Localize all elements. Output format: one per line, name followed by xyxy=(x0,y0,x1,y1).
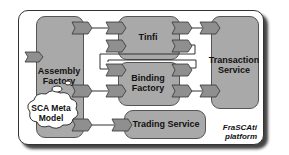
tinfi-port-in1 xyxy=(106,22,126,34)
cloud-line2: Model xyxy=(26,113,76,123)
transaction-port-in1 xyxy=(200,22,220,34)
binding-port-in2 xyxy=(106,85,126,97)
sca-meta-model-label: SCA Meta Model xyxy=(26,103,76,123)
trading-port-in xyxy=(112,119,132,131)
assembly-port-left xyxy=(25,52,43,62)
tinfi-port-out1 xyxy=(172,22,192,34)
wiring-diagram xyxy=(0,0,289,155)
binding-port-out1 xyxy=(172,64,192,76)
transaction-port-in2 xyxy=(200,85,220,97)
binding-port-in1 xyxy=(106,64,126,76)
tinfi-port-in2 xyxy=(106,40,126,52)
cloud-line1: SCA Meta xyxy=(26,103,76,113)
assembly-port-mid xyxy=(72,85,92,97)
tinfi-port-out2 xyxy=(172,40,192,52)
assembly-port-top xyxy=(72,22,92,34)
binding-port-out2 xyxy=(172,85,192,97)
